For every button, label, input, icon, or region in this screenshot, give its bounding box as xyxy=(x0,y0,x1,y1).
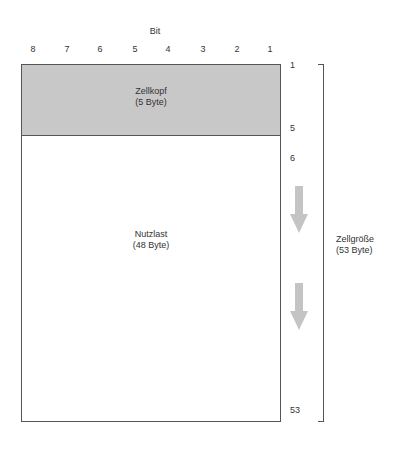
row-number-53: 53 xyxy=(290,405,300,415)
cell-size-name: Zellgröße xyxy=(336,234,374,245)
bit-label-2: 2 xyxy=(231,44,243,54)
bit-label-8: 8 xyxy=(27,44,39,54)
payload-size: (48 Byte) xyxy=(21,240,281,251)
cell-header-label: Zellkopf (5 Byte) xyxy=(21,86,281,108)
down-arrow-icon xyxy=(290,186,308,234)
cell-header-size: (5 Byte) xyxy=(21,97,281,108)
row-number-5: 5 xyxy=(290,123,295,133)
row-number-1: 1 xyxy=(290,60,295,70)
down-arrow-icon xyxy=(290,283,308,331)
cell-header-name: Zellkopf xyxy=(21,86,281,97)
cell-size-value: (53 Byte) xyxy=(336,245,374,256)
row-number-6: 6 xyxy=(290,153,295,163)
bit-label-1: 1 xyxy=(264,44,276,54)
bit-label-6: 6 xyxy=(94,44,106,54)
cell-size-bracket xyxy=(318,64,324,422)
bit-label-4: 4 xyxy=(162,44,174,54)
payload-label: Nutzlast (48 Byte) xyxy=(21,229,281,251)
bit-axis-title: Bit xyxy=(140,26,170,36)
bit-label-3: 3 xyxy=(197,44,209,54)
bit-label-7: 7 xyxy=(61,44,73,54)
bit-label-5: 5 xyxy=(129,44,141,54)
payload-name: Nutzlast xyxy=(21,229,281,240)
cell-size-label: Zellgröße (53 Byte) xyxy=(336,234,374,256)
